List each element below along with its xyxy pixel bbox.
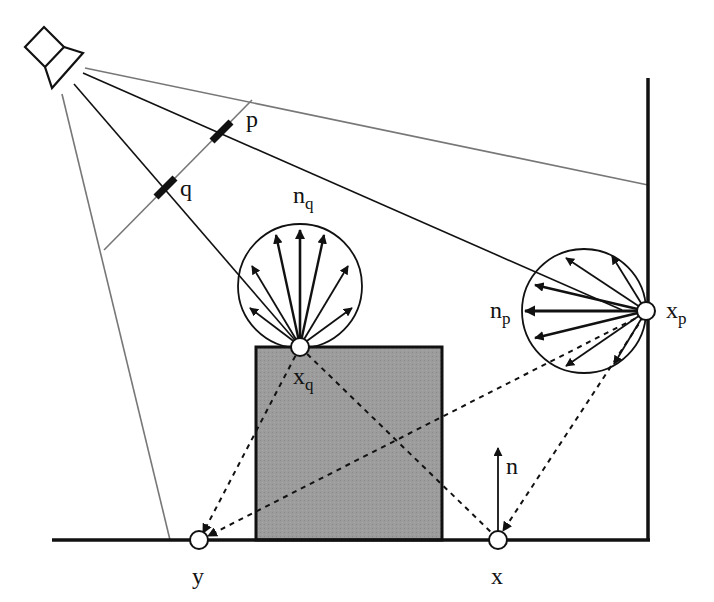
- label-n-p: np: [490, 297, 511, 328]
- label-n: n: [506, 453, 518, 479]
- point-x: [489, 531, 507, 549]
- label-q: q: [180, 175, 192, 201]
- hemisphere-p: [522, 249, 646, 373]
- primary-rays: [74, 73, 622, 346]
- pixel-q: [156, 178, 175, 197]
- label-x-p: xp: [666, 297, 687, 328]
- point-x-q: [291, 338, 309, 356]
- label-n-q: nq: [293, 182, 314, 213]
- label-p: p: [246, 106, 258, 132]
- label-x: x: [491, 563, 503, 589]
- point-x-p: [637, 302, 655, 320]
- light-transport-diagram: p q nq np: [0, 0, 714, 602]
- point-y: [190, 531, 208, 549]
- label-y: y: [192, 563, 204, 589]
- hemisphere-q: [238, 224, 362, 348]
- spotlight-icon: [25, 27, 83, 88]
